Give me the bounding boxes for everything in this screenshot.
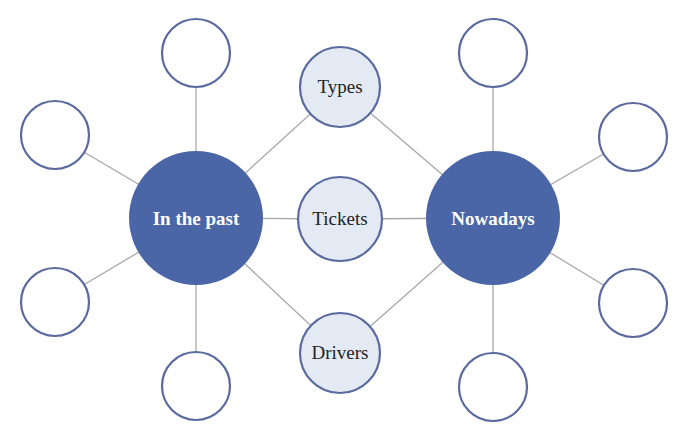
- hub-label: In the past: [153, 208, 240, 229]
- shared-topic-bubbles: TypesTicketsDrivers: [298, 47, 382, 393]
- topic-bubble-types: Types: [300, 47, 380, 127]
- empty-bubble-now-top[interactable]: [459, 19, 527, 87]
- topic-label: Tickets: [312, 208, 367, 229]
- empty-bubble-past-bottom[interactable]: [162, 352, 230, 420]
- topic-bubble-drivers: Drivers: [300, 313, 380, 393]
- empty-bubble-now-lower-right[interactable]: [599, 269, 667, 337]
- empty-bubble-past-upper-left[interactable]: [21, 101, 89, 169]
- topic-label: Types: [317, 76, 362, 97]
- hub-bubble-past: In the past: [129, 151, 263, 285]
- empty-bubble-past-top[interactable]: [162, 19, 230, 87]
- empty-bubble-now-upper-right[interactable]: [599, 103, 667, 171]
- hub-bubble-now: Nowadays: [426, 151, 560, 285]
- topic-bubble-tickets: Tickets: [298, 177, 382, 261]
- topic-label: Drivers: [312, 342, 369, 363]
- empty-bubble-past-lower-left[interactable]: [21, 268, 89, 336]
- empty-bubble-now-bottom[interactable]: [459, 353, 527, 421]
- bubble-map-diagram: TypesTicketsDrivers In the pastNowadays: [0, 0, 683, 446]
- hub-label: Nowadays: [451, 208, 534, 229]
